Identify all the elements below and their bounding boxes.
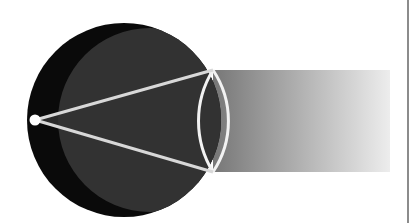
optics-diagram-svg: Point source illuminating a sphere with … [0, 0, 419, 223]
figure-root: Point source illuminating a sphere with … [0, 0, 419, 223]
point-light-source [30, 115, 41, 126]
gradient-beam [213, 70, 390, 172]
